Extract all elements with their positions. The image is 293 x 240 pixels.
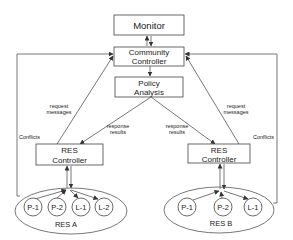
res-b-l1-label: L-1 (248, 203, 259, 212)
edge-response-right (151, 97, 215, 144)
community-controller-node: Community Controller (114, 47, 184, 66)
res-controller-a-node: RES Controller (36, 144, 103, 165)
edge-request-right (186, 56, 239, 144)
res-a-l1-label: L-1 (76, 203, 87, 212)
conflicts-right-label: Conflicts (253, 134, 274, 140)
res-b-label: RES B (210, 219, 233, 228)
edge-response-left (80, 97, 151, 144)
res-b-p1-label: P-1 (181, 203, 193, 212)
res-a-group: P-1 P-2 L-1 L-2 RES A (15, 188, 127, 234)
community-controller-label-2: Controller (132, 57, 167, 66)
edge-conflicts-left (17, 54, 113, 196)
architecture-diagram: Monitor Community Controller Policy Anal… (0, 0, 293, 240)
res-controller-a-label-1: RES (61, 146, 77, 155)
monitor-label: Monitor (133, 20, 165, 31)
edge-p2-b (221, 192, 222, 198)
res-controller-b-label-1: RES (211, 146, 227, 155)
policy-analysis-node: Policy Analysis (115, 77, 183, 97)
res-controller-b-node: RES Controller (188, 144, 250, 164)
conflicts-left-label: Conflicts (19, 134, 40, 140)
request-right-label-2: messages (223, 109, 248, 115)
community-controller-label-1: Community (129, 48, 169, 57)
edge-request-left (57, 56, 113, 144)
response-left-label-2: results (110, 129, 126, 135)
edge-conflicts-right (185, 54, 277, 203)
res-b-p2-label: P-2 (217, 203, 229, 212)
res-a-p1-label: P-1 (27, 203, 39, 212)
res-b-group: P-1 P-2 L-1 RES B (164, 187, 274, 233)
policy-analysis-label-1: Policy (138, 79, 159, 88)
monitor-node: Monitor (114, 15, 184, 35)
policy-analysis-label-2: Analysis (134, 88, 164, 97)
request-left-label-2: messages (46, 109, 71, 115)
res-a-label: RES A (55, 220, 77, 229)
edge-p1-b (193, 191, 219, 200)
res-a-p2-label: P-2 (51, 203, 63, 212)
res-controller-b-label-2: Controller (202, 155, 237, 164)
edge-l1-b (224, 191, 248, 199)
res-controller-a-label-2: Controller (52, 156, 87, 165)
response-right-label-2: results (169, 129, 185, 135)
res-a-l2-label: L-2 (99, 203, 110, 212)
